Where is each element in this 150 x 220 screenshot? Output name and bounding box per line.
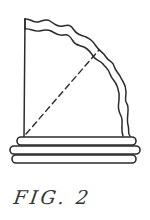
wavy-outer-edge (25, 19, 130, 136)
wavy-inner-edge (25, 29, 123, 136)
dashed-diagonal-line (26, 50, 99, 134)
vertical-edge-line (24, 19, 25, 138)
base-band-bottom (12, 155, 136, 163)
base-band-top (17, 137, 136, 145)
figure-caption: FIG. 2 (12, 186, 92, 208)
base-band-middle (10, 146, 140, 154)
